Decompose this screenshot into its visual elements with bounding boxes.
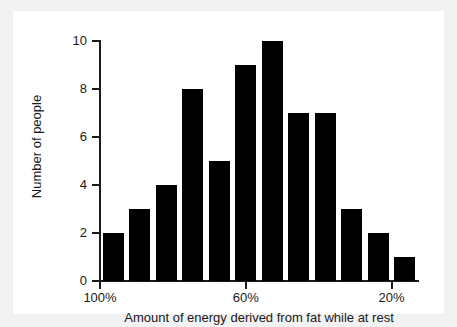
bar — [235, 65, 256, 281]
x-axis-title: Amount of energy derived from fat while … — [100, 310, 418, 325]
y-axis-tick-label: 4 — [61, 178, 87, 191]
y-axis-tick — [92, 40, 99, 42]
x-axis-tick-label: 100% — [83, 291, 116, 304]
y-axis-tick — [92, 136, 99, 138]
x-axis-tick-label: 60% — [233, 291, 259, 304]
y-axis-tick-label: 8 — [61, 82, 87, 95]
bar — [262, 41, 283, 281]
y-axis-tick-label: 0 — [61, 274, 87, 287]
bar — [156, 185, 177, 281]
y-axis-tick — [92, 184, 99, 186]
bar — [103, 233, 124, 281]
bar — [315, 113, 336, 281]
y-axis-tick-labels: 0246810 — [61, 11, 87, 327]
x-axis-tick — [245, 282, 247, 289]
y-axis-tick — [92, 88, 99, 90]
y-axis-tick — [92, 232, 99, 234]
y-axis-tick — [92, 280, 99, 282]
y-axis-title: Number of people — [29, 62, 44, 232]
bar — [129, 209, 150, 281]
x-axis-tick — [99, 282, 101, 289]
x-axis-tick — [391, 282, 393, 289]
x-axis-tick-label: 20% — [378, 291, 404, 304]
bar — [288, 113, 309, 281]
y-axis-tick-label: 2 — [61, 226, 87, 239]
bar — [209, 161, 230, 281]
y-axis-tick-label: 10 — [61, 34, 87, 47]
bar — [368, 233, 389, 281]
plot-area — [100, 41, 418, 281]
figure-outer-frame: 0246810 Amount of energy derived from fa… — [0, 0, 457, 327]
bar — [394, 257, 415, 281]
bar — [341, 209, 362, 281]
figure-canvas: 0246810 Amount of energy derived from fa… — [13, 11, 444, 314]
bar — [182, 89, 203, 281]
y-axis-tick-label: 6 — [61, 130, 87, 143]
